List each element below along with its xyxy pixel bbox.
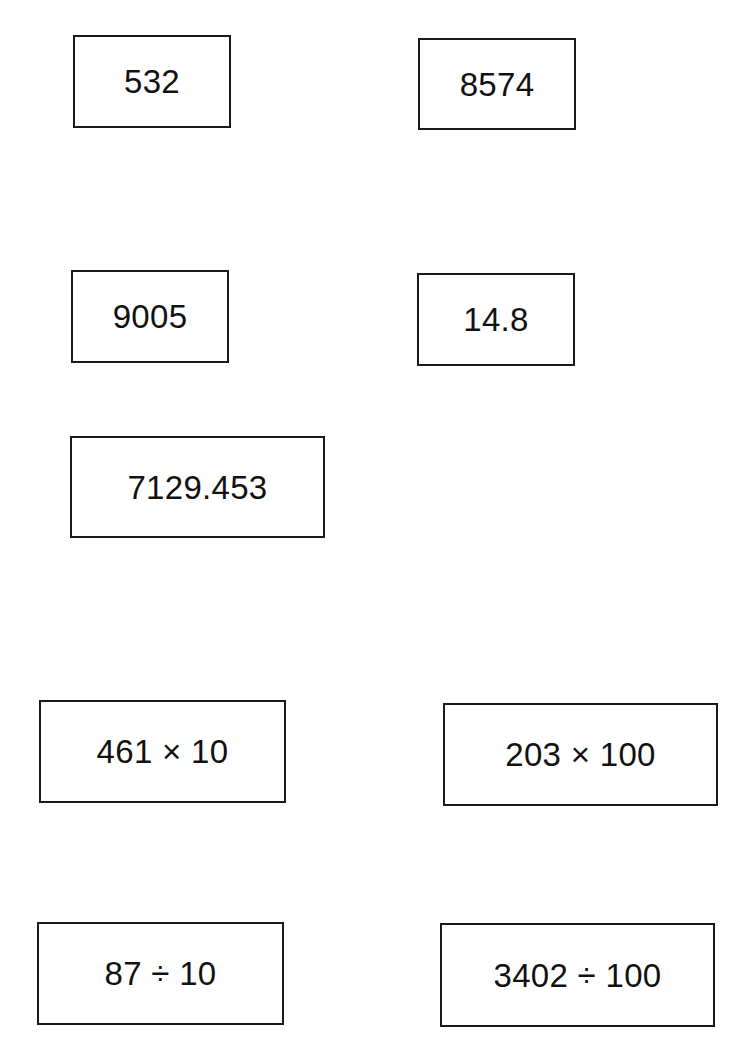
- card-expression: 87 ÷ 10: [105, 957, 217, 990]
- number-card-14-8: 14.8: [417, 273, 575, 366]
- card-expression: 461 × 10: [97, 735, 229, 768]
- card-value: 7129.453: [127, 471, 267, 504]
- expression-card-3402-divided-by-100: 3402 ÷ 100: [440, 923, 715, 1027]
- card-expression: 203 × 100: [505, 738, 655, 771]
- number-card-8574: 8574: [418, 38, 576, 130]
- card-value: 14.8: [463, 303, 528, 336]
- expression-card-461-times-10: 461 × 10: [39, 700, 286, 803]
- card-value: 9005: [113, 300, 188, 333]
- card-expression: 3402 ÷ 100: [494, 959, 662, 992]
- expression-card-87-divided-by-10: 87 ÷ 10: [37, 922, 284, 1025]
- number-card-532: 532: [73, 35, 231, 128]
- card-value: 532: [124, 65, 180, 98]
- card-value: 8574: [460, 68, 535, 101]
- number-card-9005: 9005: [71, 270, 229, 363]
- number-card-7129-453: 7129.453: [70, 436, 325, 538]
- expression-card-203-times-100: 203 × 100: [443, 703, 718, 806]
